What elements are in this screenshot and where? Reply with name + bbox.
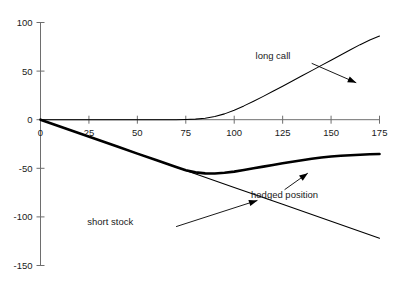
annotation-label-long-call: long call xyxy=(256,50,291,61)
arrow-head-short-stock xyxy=(248,200,257,206)
x-tick-label: 100 xyxy=(226,127,242,138)
y-tick-label: 50 xyxy=(22,66,33,77)
chart-figure: 100500-50-100-1500255075100125150175 lon… xyxy=(0,0,395,288)
x-tick-label: 0 xyxy=(38,127,43,138)
arrow-head-long-call xyxy=(347,76,356,82)
annotations-group: long callshort stockhedged position xyxy=(87,50,356,226)
y-tick-label: 0 xyxy=(27,114,32,125)
y-tick-label: -150 xyxy=(13,260,32,271)
y-tick-label: -50 xyxy=(19,163,33,174)
x-tick-label: 125 xyxy=(275,127,291,138)
y-tick-label: -100 xyxy=(13,211,32,222)
series-line-long-call xyxy=(41,36,380,120)
annotation-label-short-stock: short stock xyxy=(87,216,133,227)
x-tick-label: 75 xyxy=(180,127,191,138)
axes-group xyxy=(41,23,380,266)
tick-labels-group: 100500-50-100-1500255075100125150175 xyxy=(13,17,387,271)
leader-line-short-stock xyxy=(176,200,257,226)
x-tick-label: 50 xyxy=(132,127,143,138)
y-tick-label: 100 xyxy=(17,17,33,28)
x-tick-label: 175 xyxy=(372,127,388,138)
arrow-head-hedged-position xyxy=(299,173,308,181)
tick-marks-group xyxy=(37,23,380,266)
chart-canvas: 100500-50-100-1500255075100125150175 lon… xyxy=(0,0,395,288)
x-tick-label: 150 xyxy=(323,127,339,138)
annotation-label-hedged-position: hedged position xyxy=(251,189,318,200)
